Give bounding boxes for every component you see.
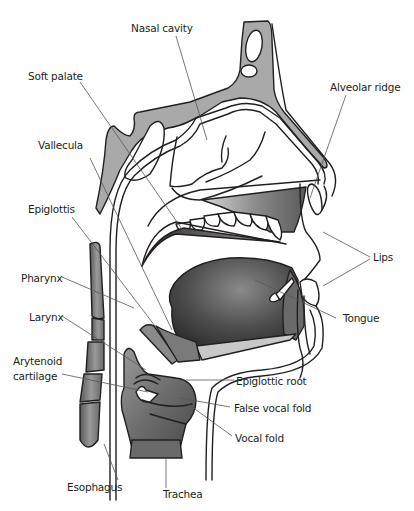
label-false-vocal-fold: False vocal fold bbox=[234, 402, 311, 415]
label-tongue: Tongue bbox=[343, 312, 379, 325]
vocal-tract-diagram: Nasal cavity Soft palate Alveolar ridge … bbox=[0, 0, 414, 511]
leader-lips-lower bbox=[323, 259, 370, 286]
label-soft-palate: Soft palate bbox=[28, 70, 83, 83]
label-alveolar-ridge: Alveolar ridge bbox=[330, 81, 400, 94]
label-pharynx: Pharynx bbox=[21, 272, 62, 285]
label-trachea: Trachea bbox=[163, 488, 203, 501]
label-nasal-cavity: Nasal cavity bbox=[131, 22, 193, 35]
leader-vocal-fold bbox=[188, 404, 232, 436]
leader-lips-upper bbox=[323, 232, 370, 257]
label-vocal-fold: Vocal fold bbox=[235, 432, 284, 445]
label-esophagus: Esophagus bbox=[67, 481, 122, 494]
trachea-ring bbox=[130, 440, 182, 458]
label-vallecula: Vallecula bbox=[38, 139, 83, 152]
larynx bbox=[121, 348, 196, 448]
upper-lip bbox=[308, 184, 323, 215]
label-epiglottis: Epiglottis bbox=[28, 203, 75, 216]
leader-soft-palate bbox=[80, 82, 184, 232]
label-epiglottic-root: Epiglottic root bbox=[236, 375, 307, 388]
sphenoid-sinus bbox=[241, 65, 257, 77]
label-arytenoid-line2: cartilage bbox=[13, 370, 57, 383]
label-lips: Lips bbox=[373, 251, 393, 264]
label-arytenoid-line1: Arytenoid bbox=[13, 355, 62, 368]
label-larynx: Larynx bbox=[29, 311, 63, 324]
spine bbox=[80, 242, 104, 447]
